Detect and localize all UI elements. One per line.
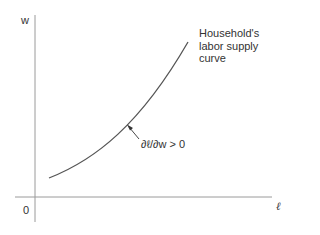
curve-label-line: curve	[199, 52, 279, 65]
curve-label-line: Household's	[199, 27, 279, 40]
y-axis-label: w	[21, 14, 29, 26]
labor-supply-curve	[49, 42, 188, 178]
x-axis-label: ℓ	[276, 201, 281, 213]
curve-label: Household's labor supply curve	[199, 27, 279, 65]
arrowhead-icon	[127, 125, 133, 131]
origin-label: 0	[23, 204, 29, 216]
curve-label-line: labor supply	[199, 40, 279, 53]
derivative-annotation: ∂ℓ/∂w > 0	[141, 138, 185, 150]
